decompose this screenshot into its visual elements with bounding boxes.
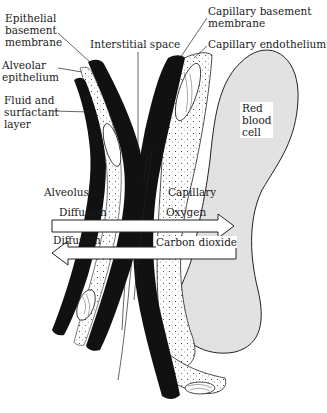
label-epithelial-basement-membrane: Epithelial basement membrane [5, 12, 62, 48]
label-oxygen: Oxygen [166, 206, 206, 218]
label-alveolar-epithelium: Alveolar epithelium [2, 59, 59, 83]
label-capillary-endothelium: Capillary endothelium [208, 38, 326, 50]
label-red-blood-cell: Red blood cell [240, 102, 273, 138]
label-fluid-surfactant-layer: Fluid and surfactant layer [4, 94, 59, 130]
label-carbon-dioxide: Carbon dioxide [156, 236, 237, 248]
leader-alveolar-epithelium [58, 68, 82, 72]
label-alveolus: Alveolus [44, 186, 89, 198]
diagram-canvas: Epithelial basement membrane Alveolar ep… [0, 0, 327, 413]
leader-epithelial-basement [58, 33, 90, 62]
label-capillary-basement-membrane: Capillary basement membrane [208, 5, 311, 29]
label-capillary: Capillary [168, 186, 216, 198]
label-diffusion-oxygen: Diffusion [59, 206, 107, 218]
label-diffusion-co2: Diffusion [53, 234, 101, 246]
leader-capillary-basement [180, 18, 207, 58]
label-interstitial-space: Interstitial space [90, 38, 180, 50]
